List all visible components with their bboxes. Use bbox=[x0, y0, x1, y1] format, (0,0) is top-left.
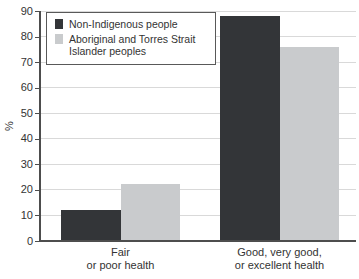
y-axis-line bbox=[39, 11, 41, 241]
bar-non-indigenous-good-very-good-or-excellent-health bbox=[220, 16, 280, 241]
y-tick-label-80: 80 bbox=[0, 30, 33, 43]
y-tick-label-40: 40 bbox=[0, 132, 33, 145]
x-axis-label-fair-or-poor-health: Fairor poor health bbox=[41, 246, 201, 272]
legend-swatch-non-indigenous bbox=[55, 19, 63, 29]
bar-aboriginal-torres-strait-islander-fair-or-poor-health bbox=[121, 184, 181, 242]
x-axis-label-line: Good, very good, bbox=[200, 246, 359, 259]
x-axis-label-line: Fair bbox=[41, 246, 201, 259]
bar-non-indigenous-fair-or-poor-health bbox=[61, 210, 121, 241]
x-axis-label-line: or poor health bbox=[41, 259, 201, 272]
legend-label-aboriginal-torres-strait-islander: Aboriginal and Torres Strait Islander pe… bbox=[69, 33, 209, 58]
legend: Non-Indigenous people Aboriginal and Tor… bbox=[46, 12, 216, 65]
x-axis-label-good-very-good-or-excellent-health: Good, very good,or excellent health bbox=[200, 246, 359, 272]
y-tick-label-20: 20 bbox=[0, 183, 33, 196]
y-tick-label-10: 10 bbox=[0, 209, 33, 222]
x-axis-line bbox=[40, 240, 356, 242]
y-tick-label-0: 0 bbox=[0, 235, 33, 248]
legend-entry-aboriginal-torres-strait-islander: Aboriginal and Torres Strait Islander pe… bbox=[55, 33, 209, 58]
y-tick-label-60: 60 bbox=[0, 81, 33, 94]
x-axis-label-line: or excellent health bbox=[200, 259, 359, 272]
bar-chart: % 0102030405060708090 Fairor poor health… bbox=[0, 0, 359, 279]
y-tick-label-70: 70 bbox=[0, 56, 33, 69]
bar-aboriginal-torres-strait-islander-good-very-good-or-excellent-health bbox=[280, 47, 340, 241]
legend-label-non-indigenous: Non-Indigenous people bbox=[69, 18, 178, 31]
legend-swatch-aboriginal-torres-strait-islander bbox=[55, 34, 63, 44]
y-tick-label-30: 30 bbox=[0, 158, 33, 171]
legend-entry-non-indigenous: Non-Indigenous people bbox=[55, 18, 209, 31]
y-tick-label-50: 50 bbox=[0, 107, 33, 120]
y-tick-label-90: 90 bbox=[0, 5, 33, 18]
